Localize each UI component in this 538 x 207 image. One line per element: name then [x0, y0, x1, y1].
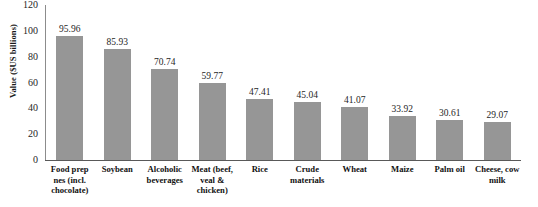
- bar[interactable]: [246, 99, 273, 160]
- bar[interactable]: [389, 116, 416, 160]
- x-axis-category-label: Soybean: [94, 164, 142, 175]
- bar[interactable]: [199, 83, 226, 160]
- bar-column[interactable]: 29.07: [484, 5, 511, 160]
- bar-chart: Value ($US billions) 020406080100120 95.…: [0, 0, 538, 207]
- bar-column[interactable]: 30.61: [436, 5, 463, 160]
- bar-value-label: 30.61: [439, 108, 460, 118]
- x-axis-category-label: Wheat: [331, 164, 379, 175]
- bar-column[interactable]: 47.41: [246, 5, 273, 160]
- bar[interactable]: [341, 107, 368, 160]
- x-axis-category-label: Meat (beef, veal & chicken): [189, 164, 237, 196]
- x-axis-category-label: Maize: [379, 164, 427, 175]
- y-axis-tick-40: 40: [28, 103, 38, 113]
- y-axis-tick-80: 80: [28, 52, 38, 62]
- bar-column[interactable]: 45.04: [294, 5, 321, 160]
- plot-area: 95.9685.9370.7459.7747.4145.0441.0733.92…: [46, 5, 521, 160]
- bar[interactable]: [436, 120, 463, 160]
- bar-column[interactable]: 95.96: [56, 5, 83, 160]
- bar[interactable]: [151, 69, 178, 160]
- bar-value-label: 41.07: [344, 95, 365, 105]
- bar-value-label: 45.04: [297, 90, 318, 100]
- bar-column[interactable]: 85.93: [104, 5, 131, 160]
- bar-value-label: 33.92: [392, 104, 413, 114]
- bar-value-label: 70.74: [154, 57, 175, 67]
- x-axis-category-label: Alcoholic beverages: [141, 164, 189, 185]
- bar-column[interactable]: 59.77: [199, 5, 226, 160]
- bar-column[interactable]: 41.07: [341, 5, 368, 160]
- bar-value-label: 85.93: [107, 37, 128, 47]
- bar[interactable]: [294, 102, 321, 160]
- y-axis-tick-120: 120: [23, 0, 38, 10]
- x-axis-category-label: Crude materials: [284, 164, 332, 185]
- y-axis-tick-100: 100: [23, 26, 38, 36]
- x-axis-category-label: Palm oil: [426, 164, 474, 175]
- bar-column[interactable]: 70.74: [151, 5, 178, 160]
- bar[interactable]: [104, 49, 131, 160]
- y-axis-tick-60: 60: [28, 78, 38, 88]
- bar[interactable]: [56, 36, 83, 160]
- x-axis-category-label: Cheese, cow milk: [474, 164, 522, 185]
- bar-value-label: 47.41: [249, 87, 270, 97]
- y-axis-tick-20: 20: [28, 129, 38, 139]
- bar-value-label: 59.77: [202, 71, 223, 81]
- bar-column[interactable]: 33.92: [389, 5, 416, 160]
- y-axis-tick-labels: 020406080100120: [0, 0, 42, 207]
- x-axis-category-label: Rice: [236, 164, 284, 175]
- y-axis-tick-0: 0: [33, 155, 38, 165]
- x-axis-line: [45, 160, 521, 161]
- bar-value-label: 29.07: [487, 110, 508, 120]
- x-axis-category-labels: Food prep nes (incl. chocolate)SoybeanAl…: [46, 164, 521, 207]
- bar-value-label: 95.96: [59, 24, 80, 34]
- bar[interactable]: [484, 122, 511, 160]
- x-axis-category-label: Food prep nes (incl. chocolate): [46, 164, 94, 196]
